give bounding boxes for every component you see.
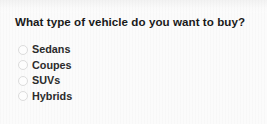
radio-option-label: Sedans — [32, 43, 70, 56]
survey-question-card: What type of vehicle do you want to buy?… — [0, 0, 267, 124]
radio-unchecked-icon[interactable] — [18, 45, 28, 55]
radio-option-sedans[interactable]: Sedans — [18, 42, 72, 57]
radio-group: Sedans Coupes SUVs Hybrids — [18, 42, 72, 104]
radio-unchecked-icon[interactable] — [18, 76, 28, 86]
radio-option-hybrids[interactable]: Hybrids — [18, 89, 72, 104]
radio-option-label: SUVs — [32, 74, 60, 87]
radio-unchecked-icon[interactable] — [18, 60, 28, 70]
page-title: What type of vehicle do you want to buy? — [15, 15, 245, 29]
radio-unchecked-icon[interactable] — [18, 91, 28, 101]
radio-option-coupes[interactable]: Coupes — [18, 58, 72, 73]
radio-option-label: Coupes — [32, 59, 72, 72]
radio-option-label: Hybrids — [32, 90, 72, 103]
radio-option-suvs[interactable]: SUVs — [18, 73, 72, 88]
top-edge-gradient — [0, 0, 267, 13]
